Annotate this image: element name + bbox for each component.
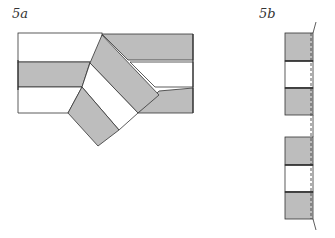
diagram-canvas [0,0,335,238]
column-upper-middle-white [285,61,313,88]
band-left-middle-gray [18,62,90,87]
band-left-top-white [18,33,102,62]
column-upper-bottom-gray [285,88,313,115]
figure-5b [285,22,316,230]
figure-5a [18,33,193,146]
column-upper-top-gray [285,33,313,61]
column-lower-bottom-gray [285,192,313,219]
column-lower-middle-white [285,165,313,192]
column-lower-top-gray [285,137,313,165]
